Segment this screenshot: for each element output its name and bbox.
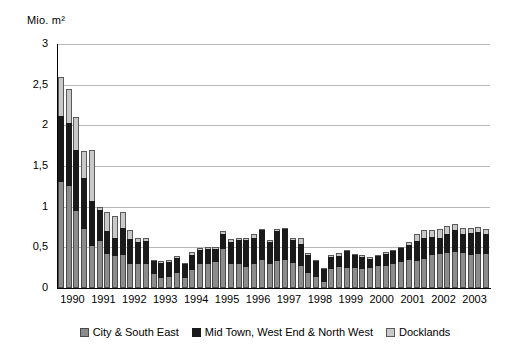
bar-segment-midtown bbox=[429, 237, 435, 256]
bar bbox=[321, 268, 327, 288]
bar bbox=[352, 254, 358, 288]
bar-segment-midtown bbox=[483, 234, 489, 254]
bar bbox=[89, 150, 95, 288]
bar-segment-city bbox=[398, 262, 404, 288]
bar-segment-midtown bbox=[58, 116, 64, 183]
bar-segment-midtown bbox=[414, 241, 420, 261]
bar-segment-city bbox=[151, 274, 157, 288]
bar bbox=[475, 227, 481, 288]
bar-segment-city bbox=[212, 262, 218, 288]
bar bbox=[182, 263, 188, 288]
bar-segment-midtown bbox=[460, 234, 466, 254]
bar bbox=[444, 226, 450, 288]
bar-segment-midtown bbox=[189, 255, 195, 270]
bar-segment-city bbox=[444, 253, 450, 288]
bar-segment-midtown bbox=[359, 257, 365, 269]
bar bbox=[112, 216, 118, 288]
bar-segment-midtown bbox=[220, 234, 226, 249]
bar-segment-midtown bbox=[282, 229, 288, 260]
bar-segment-midtown bbox=[444, 234, 450, 254]
legend-item[interactable]: City & South East bbox=[80, 326, 179, 338]
y-tick-label: 3 bbox=[0, 38, 48, 49]
bar-segment-docklands bbox=[73, 117, 79, 150]
bar-segment-city bbox=[73, 211, 79, 288]
bar-segment-docklands bbox=[444, 226, 450, 233]
bar-segment-city bbox=[483, 254, 489, 288]
bar bbox=[390, 250, 396, 288]
bar-segment-city bbox=[174, 273, 180, 288]
bar-segment-city bbox=[336, 267, 342, 288]
bar bbox=[197, 248, 203, 288]
bar-segment-city bbox=[452, 252, 458, 288]
legend-item[interactable]: Mid Town, West End & North West bbox=[192, 326, 373, 338]
legend-label: Docklands bbox=[399, 326, 450, 338]
bar-segment-midtown bbox=[151, 261, 157, 274]
bar-segment-midtown bbox=[81, 178, 87, 229]
bar-segment-midtown bbox=[375, 256, 381, 266]
bar-segment-midtown bbox=[135, 242, 141, 264]
bar-segment-midtown bbox=[97, 210, 103, 241]
bar-segment-midtown bbox=[212, 249, 218, 262]
legend-item[interactable]: Docklands bbox=[386, 326, 450, 338]
bar-segment-midtown bbox=[120, 228, 126, 256]
bar bbox=[359, 255, 365, 288]
bar bbox=[290, 238, 296, 288]
bar-segment-city bbox=[197, 264, 203, 288]
bar bbox=[452, 224, 458, 288]
bar-segment-midtown bbox=[398, 248, 404, 262]
bar-segment-midtown bbox=[290, 240, 296, 263]
bar bbox=[212, 247, 218, 288]
bar-segment-city bbox=[58, 182, 64, 288]
bar-segment-city bbox=[460, 253, 466, 288]
bar bbox=[143, 238, 149, 288]
y-axis-title: Mio. m² bbox=[27, 14, 65, 26]
bar-segment-midtown bbox=[182, 264, 188, 278]
bar-segment-city bbox=[359, 269, 365, 288]
legend-label: City & South East bbox=[93, 326, 179, 338]
bar bbox=[104, 212, 110, 288]
bar bbox=[298, 238, 304, 288]
bar-segment-city bbox=[375, 266, 381, 288]
bar-segment-midtown bbox=[298, 244, 304, 266]
bar-segment-midtown bbox=[352, 255, 358, 268]
bar-segment-city bbox=[189, 270, 195, 288]
bar-segment-city bbox=[282, 260, 288, 288]
bar-segment-docklands bbox=[104, 212, 110, 232]
bar-segment-midtown bbox=[259, 230, 265, 259]
bar-segment-city bbox=[259, 260, 265, 288]
bar-segment-city bbox=[352, 268, 358, 288]
bar bbox=[66, 89, 72, 288]
bar-segment-midtown bbox=[305, 255, 311, 272]
bar bbox=[174, 256, 180, 288]
bar-segment-city bbox=[344, 268, 350, 288]
bar bbox=[336, 253, 342, 288]
bar-segment-midtown bbox=[228, 242, 234, 264]
bar-segment-city bbox=[112, 256, 118, 288]
bar-segment-city bbox=[143, 264, 149, 288]
city-swatch bbox=[80, 328, 89, 337]
bar-segment-city bbox=[429, 255, 435, 288]
bar-segment-midtown bbox=[127, 239, 133, 263]
bar-segment-midtown bbox=[205, 249, 211, 264]
bar bbox=[158, 261, 164, 288]
bar-segment-midtown bbox=[344, 251, 350, 267]
bar-segment-docklands bbox=[112, 216, 118, 239]
bar-segment-city bbox=[81, 229, 87, 288]
chart-legend: City & South EastMid Town, West End & No… bbox=[0, 326, 530, 338]
bar-segment-midtown bbox=[475, 232, 481, 254]
bar bbox=[429, 230, 435, 288]
bar-segment-docklands bbox=[437, 229, 443, 237]
bar-segment-city bbox=[120, 255, 126, 288]
bar-segment-city bbox=[97, 241, 103, 288]
bar bbox=[259, 229, 265, 288]
bar-segment-city bbox=[390, 264, 396, 288]
bar bbox=[251, 234, 257, 288]
bar bbox=[166, 260, 172, 288]
bar-segment-docklands bbox=[421, 230, 427, 238]
bar bbox=[220, 231, 226, 288]
x-tick-label: 2003 bbox=[455, 293, 495, 305]
bar-segment-midtown bbox=[236, 240, 242, 264]
bar-segment-city bbox=[166, 277, 172, 288]
stacked-bar-chart: Mio. m² 00,511,522,53 199019911992199319… bbox=[0, 0, 530, 351]
bar-segment-midtown bbox=[158, 263, 164, 278]
